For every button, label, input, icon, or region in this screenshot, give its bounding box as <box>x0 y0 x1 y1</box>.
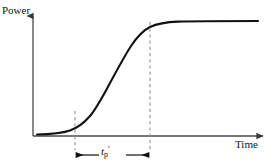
x-axis-label: Time <box>235 139 258 150</box>
y-axis-label: Power <box>2 5 30 16</box>
pulse-duration-label: tp′ <box>101 145 110 159</box>
pulse-duration-prime: ′ <box>108 144 110 154</box>
power-vs-time-figure: Power Time tp′ <box>0 0 278 167</box>
power-curve <box>37 21 258 135</box>
